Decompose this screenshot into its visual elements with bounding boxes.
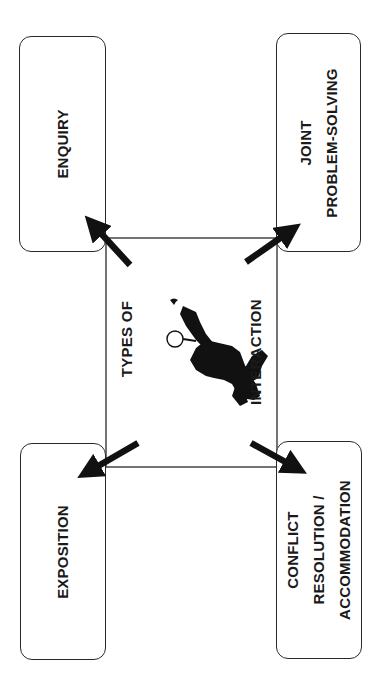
arrow-to-conflict-resolution-icon (251, 443, 291, 465)
figure-head-icon (167, 331, 183, 347)
arrow-to-exposition-icon (93, 443, 138, 469)
arrow-to-joint-problem-solving-icon (246, 234, 286, 262)
center-title-interaction: INTERACTION (247, 299, 264, 405)
arrow-to-enquiry-icon (97, 229, 130, 265)
center-title-types-of: TYPES OF (118, 301, 135, 378)
arrows-layer (0, 0, 385, 678)
diagram-canvas: ENQUIRY JOINT PROBLEM-SOLVING EXPOSITION… (0, 0, 385, 678)
figure-neck-icon (183, 339, 196, 341)
